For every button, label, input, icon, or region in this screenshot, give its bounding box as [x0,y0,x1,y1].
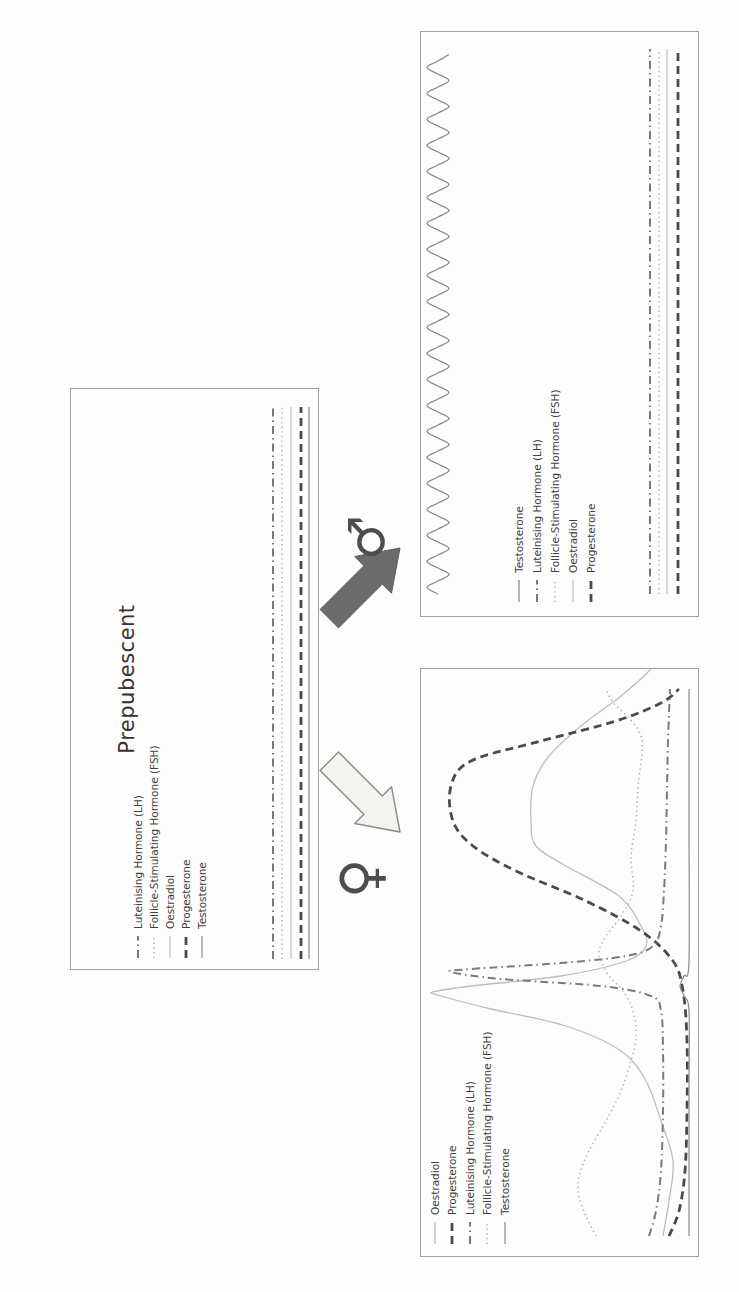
legend-label: Follicle-Stimulating Hormone (FSH) [549,389,561,573]
legend-item: Oestradiol [564,389,582,603]
progesterone-line-sample-icon [587,579,595,603]
legend-item: Testosterone [510,389,528,603]
oestradiol-line-sample-icon [431,1221,439,1245]
legend-item: Oestradiol [426,1031,444,1245]
legend-item: Progesterone [444,1031,462,1245]
legend-item: Luteinising Hormone (LH) [528,389,546,603]
legend-label: Luteinising Hormone (LH) [531,439,543,573]
lh-line-sample-icon [466,1221,474,1245]
legend-label: Testosterone [499,1148,511,1215]
female-chart: OestradiolProgesteroneLuteinising Hormon… [420,668,699,1257]
female-arrow-icon [320,752,400,832]
legend-item: Luteinising Hormone (LH) [461,1031,479,1245]
legend-label: Oestradiol [429,1161,441,1215]
male-chart: TestosteroneLuteinising Hormone (LH)Foll… [420,31,699,617]
legend-item: Progesterone [582,389,600,603]
progesterone-line-sample-icon [448,1221,456,1245]
lh-line-sample-icon [533,579,541,603]
portrait-page: Prepubescent Luteinising Hormone (LH)Fol… [0,0,739,1292]
female-fsh-line [578,689,642,1236]
male-testosterone-line [427,55,449,595]
fsh-line-sample-icon [483,1221,491,1245]
legend-item: Testosterone [496,1031,514,1245]
female-legend: OestradiolProgesteroneLuteinising Hormon… [426,1031,514,1245]
female-symbol: ♀ [334,858,388,898]
legend-item: Follicle-Stimulating Hormone (FSH) [546,389,564,603]
oestradiol-line-sample-icon [569,579,577,603]
landscape-figure: Prepubescent Luteinising Hormone (LH)Fol… [0,0,739,1292]
legend-item: Follicle-Stimulating Hormone (FSH) [479,1031,497,1245]
fsh-line-sample-icon [551,579,559,603]
male-legend: TestosteroneLuteinising Hormone (LH)Foll… [510,389,600,603]
legend-label: Oestradiol [567,519,579,573]
testosterone-line-sample-icon [515,579,523,603]
legend-label: Progesterone [585,504,597,573]
legend-label: Follicle-Stimulating Hormone (FSH) [481,1031,493,1215]
legend-label: Progesterone [446,1146,458,1215]
male-symbol: ♂ [342,515,392,560]
legend-label: Testosterone [513,506,525,573]
legend-label: Luteinising Hormone (LH) [464,1081,476,1215]
testosterone-line-sample-icon [501,1221,509,1245]
